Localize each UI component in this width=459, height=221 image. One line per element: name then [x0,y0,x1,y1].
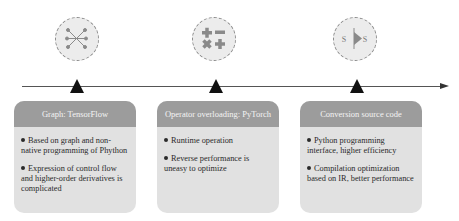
bullet-text: Expression of control flow and higher-or… [21,164,122,193]
stage-2-icon-circle [192,17,236,61]
stage-2-body: Runtime operation Reverse performance is… [157,127,279,174]
graph-network-icon [56,18,97,59]
stage-3-bullet-2: Compilation optimization based on IR, be… [307,164,415,184]
bullet-dot-icon [307,166,311,170]
bullet-text: Python programming interface, higher eff… [307,136,396,155]
stage-3-icon-circle: S S [333,17,377,61]
stage-2-card: Operator overloading: PyTorch Runtime op… [157,101,279,213]
timeline-arrow-icon [440,83,449,89]
source-transform-icon: S S [334,18,375,59]
bullet-dot-icon [164,138,168,142]
bullet-text: Reverse performance is uneasy to optimiz… [164,154,249,173]
stage-1-title: Graph: TensorFlow [14,101,136,127]
bullet-dot-icon [21,166,25,170]
stage-1-marker-icon [70,79,84,93]
bullet-dot-icon [21,138,25,142]
stage-2-marker-icon [209,79,223,93]
source-label: S [342,35,346,44]
stage-1-bullet-1: Based on graph and non-native programmin… [21,136,129,156]
bullet-dot-icon [307,138,311,142]
bullet-text: Runtime operation [171,136,233,145]
stage-1-body: Based on graph and non-native programmin… [14,127,136,194]
stage-1-bullet-2: Expression of control flow and higher-or… [21,164,129,194]
stage-1-card: Graph: TensorFlow Based on graph and non… [14,101,136,213]
bullet-dot-icon [164,156,168,160]
stage-3-card: Conversion source code Python programmin… [300,101,422,213]
target-label: S [363,35,367,44]
stage-2-bullet-1: Runtime operation [164,136,272,146]
stage-3-body: Python programming interface, higher eff… [300,127,422,184]
timeline-axis [22,86,442,87]
stage-1-icon-circle [55,17,99,61]
stage-3-marker-icon [350,79,364,93]
bullet-text: Based on graph and non-native programmin… [21,136,127,155]
bullet-text: Compilation optimization based on IR, be… [307,164,414,183]
stage-2-title: Operator overloading: PyTorch [157,101,279,127]
stage-2-bullet-2: Reverse performance is uneasy to optimiz… [164,154,272,174]
stage-3-bullet-1: Python programming interface, higher eff… [307,136,415,156]
stage-3-title: Conversion source code [300,101,422,127]
math-operators-icon [193,18,234,59]
